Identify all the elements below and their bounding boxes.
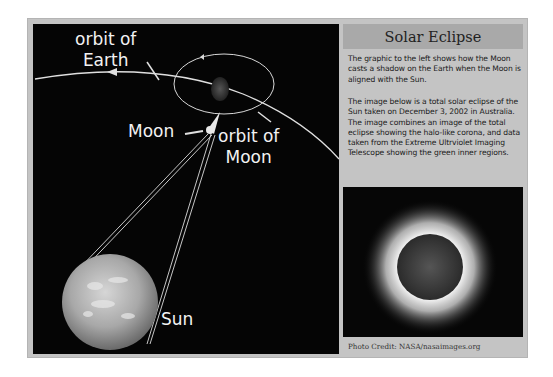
info-paragraph-1: The graphic to the left shows how the Mo… [348, 54, 526, 85]
moon-label: Moon [128, 121, 174, 142]
moon-orbit-arrow-icon [200, 54, 204, 60]
eclipse-diagram: orbit of Earth Moon orbit of Moon Sun [33, 24, 339, 354]
orbit-moon-label: orbit of Moon [218, 126, 279, 168]
diagram-graphics [33, 24, 339, 354]
earth-label-pointer [147, 62, 159, 80]
info-title: Solar Eclipse [343, 24, 523, 49]
moon-label-pointer [185, 131, 203, 134]
earth-orbit-path [35, 72, 339, 159]
info-panel: Solar Eclipse The graphic to the left sh… [340, 24, 525, 354]
eclipsed-sun-icon [397, 234, 463, 300]
orbit-earth-label: orbit of Earth [75, 29, 136, 71]
info-paragraph-2: The image below is a total solar eclipse… [348, 97, 526, 159]
earth-icon [211, 77, 229, 101]
sun-label: Sun [161, 309, 193, 330]
moon-icon [206, 126, 214, 134]
eclipse-photo [343, 187, 523, 337]
orbit-moon-pointer [258, 112, 271, 122]
photo-credit: Photo Credit: NASA/nasaimages.org [348, 342, 480, 351]
